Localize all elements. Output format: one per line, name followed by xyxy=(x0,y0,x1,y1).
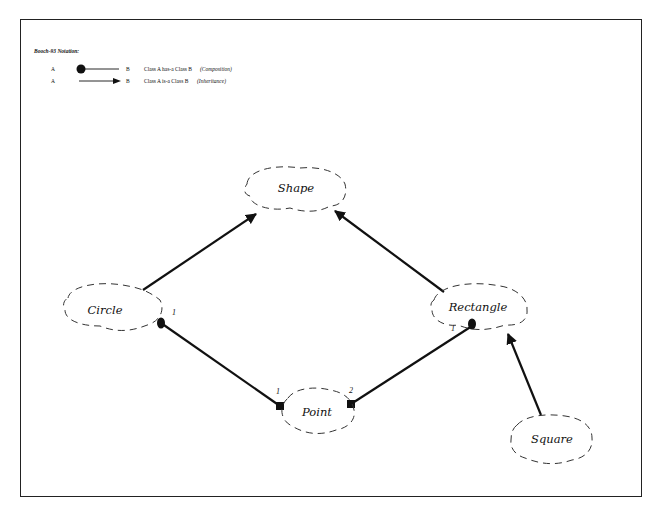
multiplicity-circle: 1 xyxy=(172,308,176,317)
multiplicity-point-right: 2 xyxy=(349,386,353,395)
legend-kind: (Inheritance) xyxy=(197,78,226,85)
class-label-square: Square xyxy=(531,432,573,446)
class-circle[interactable]: Circle xyxy=(64,284,162,331)
class-label-shape: Shape xyxy=(278,181,315,195)
point-anchor-left xyxy=(276,402,284,410)
edge-rectangle-to-point xyxy=(351,326,472,404)
class-diagram: Booch-93 Notation: A B Class A has-a Cla… xyxy=(0,0,655,512)
composition-dot-icon xyxy=(468,319,476,330)
class-rectangle[interactable]: Rectangle xyxy=(431,284,527,330)
legend-description: Class A is-a Class B xyxy=(144,78,189,84)
edge-circle-to-point xyxy=(161,323,280,406)
legend-from-label: A xyxy=(51,66,55,72)
multiplicity-point-left: 1 xyxy=(276,387,280,396)
legend-row-composition: A B Class A has-a Class B (Composition) xyxy=(51,65,232,74)
legend-row-inheritance: A B Class A is-a Class B (Inheritance) xyxy=(51,78,226,85)
legend-to-label: B xyxy=(126,78,130,84)
legend-to-label: B xyxy=(126,66,130,72)
class-label-rectangle: Rectangle xyxy=(448,300,508,314)
point-anchor-right xyxy=(347,400,355,408)
edge-square-to-rectangle xyxy=(508,334,541,415)
edge-rectangle-to-shape xyxy=(335,211,444,292)
legend-description: Class A has-a Class B xyxy=(144,66,192,72)
legend: Booch-93 Notation: A B Class A has-a Cla… xyxy=(33,48,232,85)
edge-circle-to-shape xyxy=(143,214,256,290)
class-square[interactable]: Square xyxy=(511,415,592,464)
class-shape[interactable]: Shape xyxy=(245,167,346,211)
arrowhead-icon xyxy=(113,78,121,84)
legend-from-label: A xyxy=(51,78,55,84)
class-label-circle: Circle xyxy=(88,303,123,317)
legend-kind: (Composition) xyxy=(200,66,232,73)
class-label-point: Point xyxy=(301,405,332,419)
legend-title: Booch-93 Notation: xyxy=(33,48,79,54)
class-point[interactable]: Point xyxy=(282,388,354,433)
composition-dot-icon xyxy=(157,318,165,329)
